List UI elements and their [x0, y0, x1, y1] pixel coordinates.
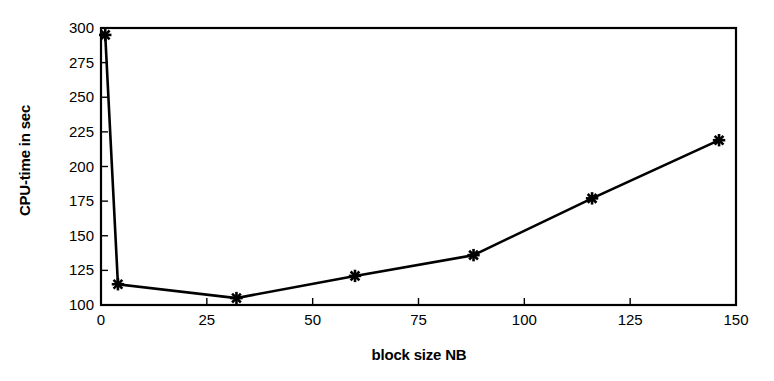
y-tick-label: 125 — [69, 262, 94, 277]
y-tick-label: 150 — [69, 228, 94, 243]
x-tick-label: 150 — [706, 312, 766, 327]
y-tick-label: 300 — [69, 20, 94, 35]
x-tick-label: 75 — [389, 312, 449, 327]
y-tick-label: 100 — [69, 297, 94, 312]
x-tick-label: 100 — [494, 312, 554, 327]
y-tick-label: 175 — [69, 193, 94, 208]
x-tick-label: 125 — [600, 312, 660, 327]
chart-figure: CPU-time in sec block size NB 1001251501… — [0, 0, 774, 381]
x-tick-label: 50 — [283, 312, 343, 327]
y-tick-label: 200 — [69, 159, 94, 174]
y-tick-label: 275 — [69, 55, 94, 70]
x-tick-label: 0 — [71, 312, 131, 327]
y-axis-label: CPU-time in sec — [16, 61, 33, 261]
x-axis-label: block size NB — [101, 346, 737, 363]
y-tick-label: 250 — [69, 89, 94, 104]
x-tick-label: 25 — [177, 312, 237, 327]
plot-frame — [101, 28, 736, 305]
y-tick-label: 225 — [69, 124, 94, 139]
